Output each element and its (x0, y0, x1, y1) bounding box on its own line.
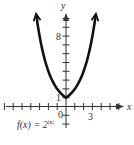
y-tick-label-1: 1 (56, 92, 61, 103)
x-axis-label: x (126, 101, 132, 112)
y-tick-label-8: 8 (56, 31, 61, 42)
y-axis-label: y (60, 0, 66, 11)
x-tick-label-3: 3 (88, 111, 93, 122)
x-axis (4, 103, 124, 110)
function-graph: y x 8 1 0 3 f(x) = 2|x| (0, 0, 134, 145)
y-axis (63, 13, 70, 128)
function-label: f(x) = 2|x| (17, 118, 54, 131)
y-axis-arrow-icon (63, 13, 69, 21)
x-tick-label-0: 0 (58, 109, 63, 120)
x-axis-arrow-icon (116, 104, 124, 110)
